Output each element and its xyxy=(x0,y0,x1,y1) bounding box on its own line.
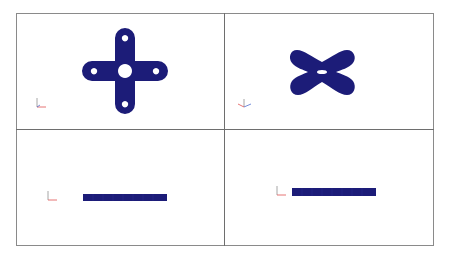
edge-bar-part xyxy=(83,194,167,201)
edge-bar-part xyxy=(292,188,376,196)
cross-plate-part xyxy=(82,28,168,114)
model-views xyxy=(0,0,450,261)
viewport-top-right[interactable] xyxy=(238,50,355,107)
axis-triad-icon xyxy=(277,186,286,195)
viewport-top-left[interactable] xyxy=(37,28,168,114)
viewport-bottom-right[interactable] xyxy=(277,186,376,196)
oblique-plate-part xyxy=(290,50,355,95)
axis-triad-icon xyxy=(37,98,46,107)
axis-triad-icon xyxy=(48,191,57,200)
viewport-bottom-left[interactable] xyxy=(48,191,167,201)
axis-triad-icon xyxy=(238,99,251,107)
